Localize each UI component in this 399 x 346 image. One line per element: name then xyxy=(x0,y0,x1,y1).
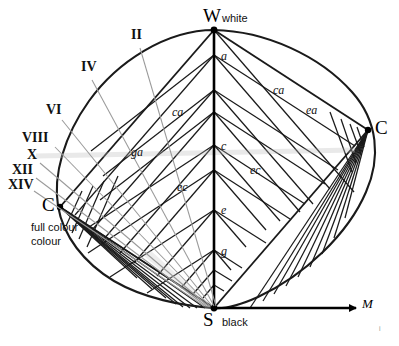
right-grid xyxy=(214,30,368,308)
axis-letter-e: e xyxy=(221,204,226,216)
diagram-canvas xyxy=(0,0,399,346)
solid-outline xyxy=(57,30,375,308)
roman-label-XIV: XIV xyxy=(8,178,34,192)
roman-label-IV: IV xyxy=(81,60,97,74)
full-colour-caption-line1: full colour xyxy=(31,222,78,233)
vertex-label-black: S xyxy=(203,310,214,329)
roman-label-VI: VI xyxy=(46,103,62,117)
vertex-dot-full-colour-right xyxy=(365,127,371,133)
m-axis-label: M xyxy=(362,297,373,310)
full-colour-caption-line2: colour xyxy=(31,236,61,247)
vertex-label-full-colour-right: C xyxy=(375,118,388,137)
grid-letter-ec-left: ec xyxy=(177,181,188,193)
leader-line-XIV xyxy=(34,191,204,306)
roman-label-II: II xyxy=(131,28,142,42)
vertex-label-white: W xyxy=(203,6,221,25)
vertex-name-white: white xyxy=(222,13,248,24)
grid-letter-ca-right: ca xyxy=(273,84,284,96)
grid-letter-ea-right: ea xyxy=(306,104,317,116)
axis-letter-c: c xyxy=(221,140,226,152)
roman-label-VIII: VIII xyxy=(22,131,48,145)
roman-label-X: X xyxy=(27,148,37,162)
corner-scan-mark: i xyxy=(379,325,381,332)
vertex-label-full-colour-left: C xyxy=(42,195,55,214)
grid-letter-ec-right: ec xyxy=(250,164,261,176)
leader-line-VIII xyxy=(55,147,210,306)
axis-letter-a: a xyxy=(221,50,227,62)
axis-letter-g: g xyxy=(221,245,227,257)
roman-label-XII: XII xyxy=(12,163,33,177)
vertex-dot-white xyxy=(211,27,218,34)
vertex-name-black: black xyxy=(222,317,248,328)
grid-letter-ga-left: ga xyxy=(131,146,143,158)
colour-solid-diagram: W white S black C full colour C M II IV … xyxy=(0,0,399,346)
grid-letter-ca-left: ca xyxy=(172,106,183,118)
